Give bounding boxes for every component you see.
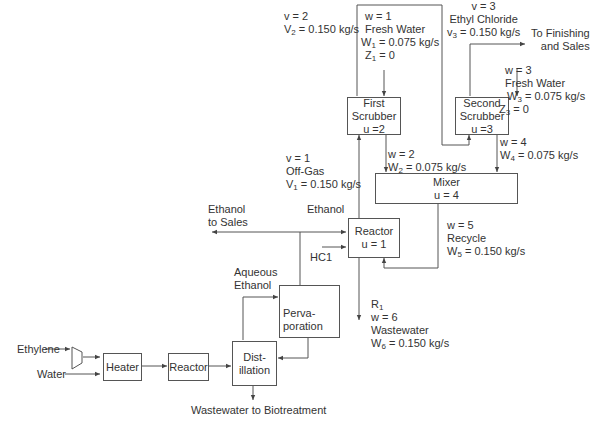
stream-v1-label: v = 1 Off-Gas V1 = 0.150 kg/s	[286, 152, 361, 191]
ethanol-label: Ethanol	[307, 203, 344, 216]
flow-lines	[0, 0, 592, 428]
reactor-1-label: Reactor	[355, 225, 394, 238]
ethanol-to-sales-label: Ethanol to Sales	[208, 203, 248, 229]
water-label: Water	[37, 368, 66, 381]
second-scrubber-label-2: Scrubber	[460, 110, 505, 123]
reactor-unit: Reactor	[168, 353, 209, 381]
stream-v2-label: v = 2 V2 = 0.150 kg/s	[284, 10, 359, 36]
mixer-unit: Mixer u = 4	[375, 173, 518, 204]
mixer-label: Mixer	[433, 176, 460, 189]
ethylene-label: Ethylene	[17, 343, 60, 356]
heater-label: Heater	[106, 361, 139, 374]
pervaporation-label-2: poration	[283, 320, 323, 333]
reactor-1-id: u = 1	[362, 238, 387, 251]
stream-v3-label: v = 3 Ethyl Chloride v3 = 0.150 kg/s	[447, 0, 520, 39]
first-scrubber-id: u =2	[363, 123, 385, 136]
aqueous-ethanol-label: Aqueous Ethanol	[234, 266, 277, 292]
distillation-unit: Dist- illation	[232, 341, 277, 386]
distillation-label-2: illation	[239, 364, 270, 377]
to-finishing-label: To Finishing and Sales	[531, 27, 590, 53]
stream-w4-label: w = 4 W4 = 0.075 kg/s	[500, 136, 578, 162]
first-scrubber-unit: First Scrubber u =2	[347, 97, 401, 135]
reactor-label: Reactor	[169, 361, 208, 374]
pervaporation-unit: Perva- poration	[279, 285, 340, 338]
mixer-id: u = 4	[434, 189, 459, 202]
first-scrubber-label: First	[363, 97, 384, 110]
heater-unit: Heater	[103, 353, 142, 381]
stream-w2-label: w = 2 W2 = 0.075 kg/s	[388, 148, 466, 174]
first-scrubber-label-2: Scrubber	[352, 110, 397, 123]
hcl-label: HC1	[310, 251, 332, 264]
wastewater-biotreatment-label: Wastewater to Biotreatment	[191, 404, 326, 417]
stream-w6-label: R1 w = 6 Wastewater W6 = 0.150 kg/s	[371, 298, 449, 350]
reactor-1-unit: Reactor u = 1	[348, 218, 400, 258]
stream-w5-label: w = 5 Recycle W5 = 0.150 kg/s	[447, 219, 525, 258]
stream-w3-label: w = 3 Fresh Water W3 = 0.075 kg/s Z3 = 0	[507, 64, 585, 116]
second-scrubber-label: Second	[463, 97, 500, 110]
distillation-label: Dist-	[243, 351, 266, 364]
stream-w1-label: w = 1 Fresh Water W1 = 0.075 kg/s Z1 = 0	[365, 10, 439, 62]
second-scrubber-id: u =3	[471, 123, 493, 136]
pervaporation-label: Perva-	[283, 307, 315, 320]
